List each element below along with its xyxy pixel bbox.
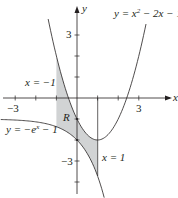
exp-label-lhs: y = −e bbox=[5, 123, 36, 135]
parabola-label-rhs: − 2x − 1 bbox=[140, 7, 178, 19]
parabola-label: y = x2 − 2x − 1 bbox=[113, 7, 178, 19]
chart: x y −3 3 3 −3 y = x2 − 2x − 1 y = −ex − … bbox=[0, 0, 178, 198]
y-tick-label-neg3: −3 bbox=[61, 155, 73, 167]
x-axis-label: x bbox=[172, 91, 178, 103]
y-axis-label: y bbox=[81, 2, 87, 14]
intersection-point-y-neg2 bbox=[76, 139, 78, 141]
parabola-label-lhs: y = x bbox=[113, 7, 137, 19]
y-tick-label-3: 3 bbox=[66, 28, 72, 40]
line-right-label: x = 1 bbox=[101, 151, 125, 163]
exp-curve-label: y = −ex − 1 bbox=[5, 123, 58, 135]
x-tick-label-3: 3 bbox=[136, 102, 142, 114]
x-tick-label-neg3: −3 bbox=[7, 102, 19, 114]
line-left-label: x = −1 bbox=[24, 76, 56, 88]
intersection-point-y-neg1 bbox=[76, 118, 78, 120]
exp-label-rhs: − 1 bbox=[39, 123, 57, 135]
x-axis-arrow-icon bbox=[165, 96, 172, 101]
y-axis-arrow-icon bbox=[75, 6, 80, 13]
region-label: R bbox=[62, 111, 70, 123]
